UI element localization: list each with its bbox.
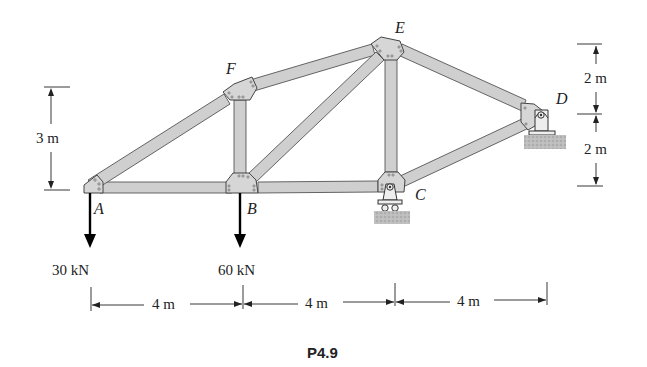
- joint-label-b: B: [247, 200, 257, 217]
- member-ed: [398, 44, 526, 111]
- load-label-b: 60 kN: [218, 262, 255, 278]
- joint-label-c: C: [415, 186, 426, 203]
- figure-caption: P4.9: [307, 344, 338, 361]
- load-label-a: 30 kN: [52, 262, 89, 278]
- joint-label-f: F: [225, 60, 236, 77]
- dimension-right-heights: [577, 44, 603, 186]
- member-cd: [398, 118, 529, 187]
- truss-members: [88, 44, 529, 193]
- member-ec: [385, 58, 397, 172]
- joint-label-e: E: [394, 19, 405, 36]
- dimension-span-3: 4 m: [457, 293, 480, 309]
- dimension-label-2m-upper: 2 m: [584, 70, 607, 86]
- member-af: [88, 94, 230, 188]
- dimension-label-3m: 3 m: [36, 130, 59, 146]
- truss-diagram: A B C D E F 30 kN 60 kN 3 m 2 m 2 m: [0, 0, 647, 367]
- member-fb: [234, 100, 246, 176]
- load-arrow-b: [234, 193, 246, 248]
- member-bc: [258, 181, 378, 193]
- dimension-label-2m-lower: 2 m: [584, 141, 607, 157]
- dimension-span-1: 4 m: [152, 296, 175, 312]
- joint-label-d: D: [555, 90, 568, 107]
- joint-label-a: A: [93, 200, 104, 217]
- dimension-span-2: 4 m: [305, 295, 328, 311]
- member-ab: [100, 182, 232, 193]
